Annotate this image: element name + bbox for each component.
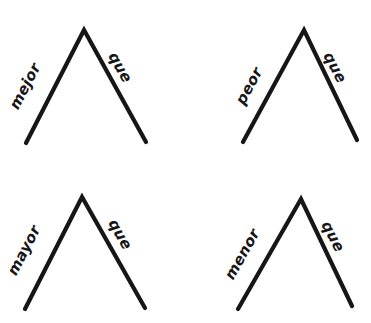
chevron-menor-que-shape	[0, 161, 371, 323]
diagram-canvas: mejor que peor que mayor que menor que	[0, 0, 371, 323]
chevron-peor-que: peor que	[0, 0, 371, 161]
chevron-peor-que-shape	[0, 0, 371, 161]
chevron-menor-que: menor que	[0, 161, 371, 323]
